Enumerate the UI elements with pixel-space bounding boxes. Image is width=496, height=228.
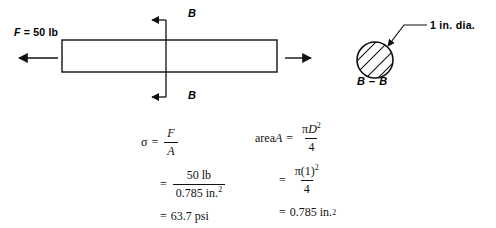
area-numerator-2-value: π(1): [295, 164, 315, 178]
bar-body: [62, 40, 277, 72]
diameter-dimension-label: 1 in. dia.: [430, 20, 475, 31]
area-result-value: 0.785 in.: [290, 205, 332, 220]
stress-numerator-2: 50 lb: [184, 168, 214, 184]
area-denominator-1: 4: [305, 138, 317, 155]
stress-equals-1: =: [151, 135, 158, 150]
diagram-svg: [0, 0, 496, 228]
section-view-caption: B – B: [357, 76, 388, 87]
area-eq-line2: = π(1)2 4: [255, 164, 336, 197]
section-label-bottom: B: [188, 90, 196, 101]
cross-section-circle: [357, 42, 393, 78]
area-equals-1: =: [286, 131, 293, 146]
stress-eq-line2: = 50 lb 0.785 in.2: [141, 168, 227, 201]
area-fraction-2: π(1)2 4: [292, 164, 322, 197]
section-caption-dash: –: [365, 75, 379, 87]
section-label-top: B: [188, 8, 196, 19]
area-symbol: A: [275, 131, 282, 146]
area-numerator-1: πD2: [299, 122, 324, 138]
area-denominator-2: 4: [301, 180, 313, 197]
section-caption-right: B: [379, 75, 387, 87]
stress-result-value: 63.7 psi: [171, 209, 209, 224]
stress-denominator-2-exponent: 2: [218, 185, 222, 194]
stress-equation-column: σ = F A = 50 lb 0.785 in.2 = 63.7 psi: [141, 126, 227, 228]
stress-eq-line3: = 63.7 psi: [141, 209, 227, 224]
stress-equals-3: =: [160, 209, 167, 224]
stress-denominator-2-value: 0.785 in.: [176, 186, 218, 200]
dimension-leader-line: [388, 25, 427, 46]
force-symbol: F: [14, 26, 21, 38]
stress-eq-line1: σ = F A: [141, 126, 227, 159]
area-eq-line3: = 0.785 in.2: [255, 205, 336, 220]
area-numerator-2-exponent: 2: [315, 163, 319, 172]
force-value: = 50 lb: [21, 26, 59, 38]
area-numerator-2: π(1)2: [292, 164, 322, 180]
stress-fraction-1: F A: [164, 126, 177, 159]
stress-sigma-symbol: σ: [141, 135, 147, 150]
area-equation-column: area A = πD2 4 = π(1)2 4 = 0.785 in.2: [255, 122, 336, 228]
figure-canvas: F = 50 lb B B 1 in. dia. B – B σ = F A =…: [0, 0, 496, 228]
stress-denominator-1: A: [164, 142, 177, 159]
area-equals-2: =: [279, 173, 286, 188]
area-numerator-1-exponent: 2: [317, 121, 321, 130]
area-eq-line1: area A = πD2 4: [255, 122, 336, 155]
stress-numerator-1: F: [164, 126, 177, 142]
area-diameter-symbol: D: [308, 122, 317, 136]
stress-fraction-2: 50 lb 0.785 in.2: [173, 168, 225, 201]
area-fraction-1: πD2 4: [299, 122, 324, 155]
force-label: F = 50 lb: [14, 27, 58, 38]
area-equals-3: =: [279, 205, 286, 220]
stress-denominator-2: 0.785 in.2: [173, 184, 225, 201]
stress-equals-2: =: [160, 177, 167, 192]
area-word: area: [255, 131, 275, 146]
